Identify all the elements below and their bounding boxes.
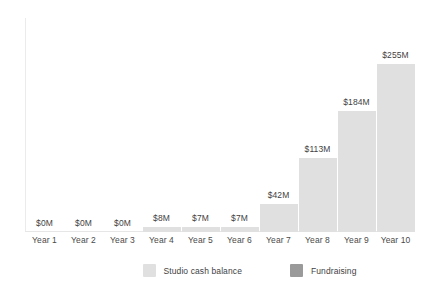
bar-segment-studio-cash-balance[interactable]: [143, 227, 181, 232]
legend-label: Studio cash balance: [164, 266, 242, 276]
x-axis-tick-label: Year 5: [181, 235, 220, 245]
bar-segment-studio-cash-balance[interactable]: [299, 158, 337, 232]
legend-item[interactable]: Studio cash balance: [143, 264, 242, 277]
bar-column[interactable]: $113M: [298, 18, 337, 232]
x-axis-tick-label: Year 8: [298, 235, 337, 245]
bar-segment-studio-cash-balance[interactable]: [377, 64, 415, 232]
bar-column[interactable]: $8M: [142, 18, 181, 232]
bar-value-label: $8M: [153, 213, 170, 223]
x-axis-tick-label: Year 2: [64, 235, 103, 245]
bar-chart: $0M$0M$0M$8M$7M$7M$42M$113M$184M$255M Ye…: [0, 0, 421, 296]
bar-value-label: $0M: [114, 218, 131, 228]
bar-segment-studio-cash-balance[interactable]: [221, 227, 259, 232]
bar-value-label: $113M: [305, 144, 331, 154]
x-axis-labels: Year 1Year 2Year 3Year 4Year 5Year 6Year…: [25, 235, 415, 245]
legend-label: Fundraising: [311, 266, 357, 276]
bar-group: $0M$0M$0M$8M$7M$7M$42M$113M$184M$255M: [25, 18, 415, 232]
x-axis-tick-label: Year 3: [103, 235, 142, 245]
bar-value-label: $42M: [268, 190, 290, 200]
x-axis-tick-label: Year 7: [259, 235, 298, 245]
bar-column[interactable]: $255M: [376, 18, 415, 232]
bar-value-label: $0M: [75, 218, 92, 228]
x-axis-tick-label: Year 10: [376, 235, 415, 245]
bar-column[interactable]: $7M: [220, 18, 259, 232]
bar-column[interactable]: $0M: [64, 18, 103, 232]
chart-legend: Studio cash balanceFundraising: [0, 264, 421, 277]
legend-swatch-icon: [290, 264, 303, 277]
x-axis-tick-label: Year 4: [142, 235, 181, 245]
bar-column[interactable]: $0M: [103, 18, 142, 232]
bar-column[interactable]: $7M: [181, 18, 220, 232]
bar-value-label: $7M: [192, 213, 209, 223]
bar-segment-studio-cash-balance[interactable]: [338, 111, 376, 232]
bar-column[interactable]: $184M: [337, 18, 376, 232]
bar-value-label: $184M: [343, 97, 370, 107]
chart-title-clipped: [0, 0, 421, 6]
legend-item[interactable]: Fundraising: [290, 264, 357, 277]
plot-area: $0M$0M$0M$8M$7M$7M$42M$113M$184M$255M: [25, 18, 415, 232]
x-axis-tick-label: Year 6: [220, 235, 259, 245]
bar-value-label: $7M: [231, 213, 248, 223]
bar-column[interactable]: $0M: [25, 18, 64, 232]
bar-column[interactable]: $42M: [259, 18, 298, 232]
x-axis-tick-label: Year 9: [337, 235, 376, 245]
bar-value-label: $255M: [382, 50, 409, 60]
legend-swatch-icon: [143, 264, 156, 277]
bar-segment-studio-cash-balance[interactable]: [260, 204, 298, 232]
bar-value-label: $0M: [36, 218, 53, 228]
bar-segment-studio-cash-balance[interactable]: [182, 227, 220, 232]
x-axis-tick-label: Year 1: [25, 235, 64, 245]
